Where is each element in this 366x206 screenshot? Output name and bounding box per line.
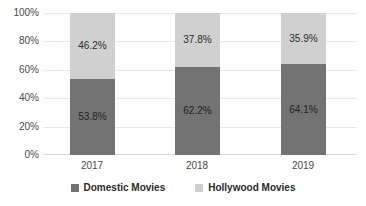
bar-segment-domestic-2017: 53.8% — [70, 79, 115, 155]
x-axis-tick-2017: 2017 — [52, 160, 132, 171]
legend-item-label: Domestic Movies — [84, 182, 166, 193]
legend-item-hollywood-movies: Hollywood Movies — [195, 182, 295, 193]
bar-group-2019: 35.9% 64.1% — [281, 13, 326, 155]
bar-segment-hollywood-2017: 46.2% — [70, 13, 115, 79]
x-axis-tick-2018: 2018 — [157, 160, 237, 171]
bar-segment-label: 37.8% — [183, 35, 211, 45]
bar-segment-label: 62.2% — [183, 106, 211, 116]
bar-segment-domestic-2019: 64.1% — [281, 64, 326, 155]
legend-swatch-icon — [71, 184, 79, 192]
legend-item-domestic-movies: Domestic Movies — [71, 182, 166, 193]
bar-segment-hollywood-2018: 37.8% — [175, 13, 220, 67]
plot-area: 46.2% 53.8% 37.8% 62.2% 35.9% 64.1% — [43, 13, 357, 155]
y-axis-tick-60: 60% — [0, 65, 39, 75]
bar-segment-label: 53.8% — [78, 112, 106, 122]
bar-segment-domestic-2018: 62.2% — [175, 67, 220, 155]
legend-swatch-icon — [195, 184, 203, 192]
y-axis-tick-40: 40% — [0, 93, 39, 103]
stacked-bar-chart: 46.2% 53.8% 37.8% 62.2% 35.9% 64.1% — [0, 0, 366, 206]
y-axis: 100% 80% 60% 40% 20% 0% — [0, 0, 39, 206]
y-axis-tick-80: 80% — [0, 36, 39, 46]
y-axis-tick-100: 100% — [0, 8, 39, 18]
bar-group-2018: 37.8% 62.2% — [175, 13, 220, 155]
bar-segment-label: 64.1% — [289, 105, 317, 115]
bar-segment-hollywood-2019: 35.9% — [281, 13, 326, 64]
bar-segment-label: 35.9% — [289, 34, 317, 44]
y-axis-tick-20: 20% — [0, 122, 39, 132]
legend-item-label: Hollywood Movies — [208, 182, 295, 193]
legend: Domestic Movies Hollywood Movies — [0, 182, 366, 193]
y-axis-tick-0: 0% — [0, 150, 39, 160]
bar-segment-label: 46.2% — [78, 41, 106, 51]
x-axis-tick-2019: 2019 — [263, 160, 343, 171]
bar-group-2017: 46.2% 53.8% — [70, 13, 115, 155]
